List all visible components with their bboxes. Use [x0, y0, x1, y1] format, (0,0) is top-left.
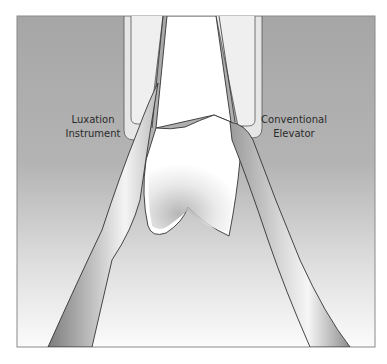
- label-luxation-line1: Luxation: [62, 113, 124, 127]
- label-luxation-instrument: Luxation Instrument: [62, 113, 124, 141]
- label-conventional-elevator: Conventional Elevator: [256, 113, 332, 141]
- label-elevator-line2: Elevator: [256, 127, 332, 141]
- label-elevator-line1: Conventional: [256, 113, 332, 127]
- extraction-diagram: [0, 0, 387, 364]
- label-luxation-line2: Instrument: [62, 127, 124, 141]
